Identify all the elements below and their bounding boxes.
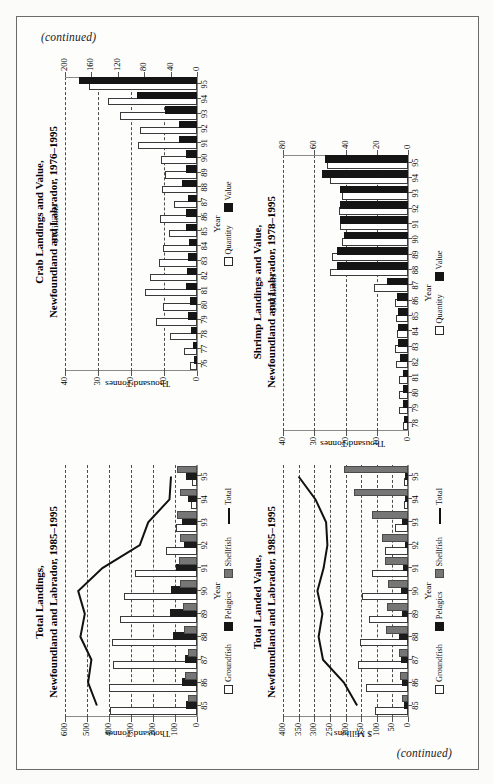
x-tick-label-89: 89 bbox=[411, 247, 420, 262]
gridline bbox=[131, 77, 132, 371]
x-tick bbox=[197, 590, 201, 591]
x-tick bbox=[197, 98, 201, 99]
bar-value-84 bbox=[398, 324, 408, 332]
x-tick bbox=[197, 230, 201, 231]
legend-swatch-groundfish bbox=[224, 685, 233, 694]
bar-value-82 bbox=[187, 268, 197, 275]
y-tick bbox=[131, 717, 132, 722]
x-tick-label-82: 82 bbox=[411, 354, 420, 369]
legend-item-shellfish: Shellfish bbox=[435, 537, 444, 579]
plot-area: 0501001502002503003504008586878889909192… bbox=[283, 465, 408, 717]
x-tick-label-94: 94 bbox=[411, 170, 420, 185]
x-tick-label-89: 89 bbox=[411, 602, 420, 625]
chart-legend: GroundfishPelagicsShellfishTotal bbox=[224, 465, 233, 717]
x-tick bbox=[408, 682, 412, 683]
x-tick bbox=[197, 659, 201, 660]
y2-axis-title: $ Millions bbox=[50, 77, 60, 371]
y-tick-label: 0 bbox=[402, 437, 412, 455]
x-tick-label-80: 80 bbox=[200, 298, 209, 313]
legend-label-total: Total bbox=[224, 488, 233, 505]
x-tick-label-86: 86 bbox=[411, 671, 420, 694]
x-tick bbox=[197, 333, 201, 334]
legend-item-pelagics: Pelagics bbox=[224, 592, 233, 632]
x-tick-label-88: 88 bbox=[411, 262, 420, 277]
y-tick-label: 250 bbox=[324, 723, 334, 745]
bar-value-84 bbox=[189, 239, 197, 246]
bar-value-80 bbox=[190, 297, 197, 304]
x-tick-label-78: 78 bbox=[411, 416, 420, 431]
chart-title: Total Landings,Newfoundland and Labrador… bbox=[33, 457, 61, 747]
x-tick-label-95: 95 bbox=[200, 465, 209, 488]
legend-item-pelagics: Pelagics bbox=[435, 592, 444, 632]
x-tick-label-91: 91 bbox=[411, 557, 420, 580]
y2-axis-title: $ Millions bbox=[268, 155, 278, 431]
chart-legend: QuantityValue bbox=[435, 155, 444, 431]
legend-label-groundfish: Groundfish bbox=[224, 644, 233, 682]
bar-value-83 bbox=[188, 253, 197, 260]
y2-tick-label: 40 bbox=[340, 131, 350, 149]
x-tick-label-91: 91 bbox=[200, 557, 209, 580]
legend-item-total: Total bbox=[435, 488, 444, 524]
bar-value-92 bbox=[179, 121, 197, 128]
x-axis-title: Year bbox=[423, 155, 433, 431]
bar-value-93 bbox=[340, 186, 408, 194]
x-tick bbox=[197, 613, 201, 614]
bar-value-92 bbox=[340, 201, 408, 209]
x-tick bbox=[197, 260, 201, 261]
y-tick bbox=[361, 717, 362, 722]
bar-value-90 bbox=[186, 150, 197, 157]
legend-item-value: Value bbox=[224, 182, 233, 213]
x-tick bbox=[197, 113, 201, 114]
y-tick-label: 50 bbox=[386, 723, 396, 745]
y-tick bbox=[283, 431, 284, 436]
x-tick-label-89: 89 bbox=[200, 165, 209, 180]
y-tick bbox=[87, 717, 88, 722]
legend-swatch-pelagics bbox=[224, 622, 233, 631]
y-tick bbox=[197, 371, 198, 376]
bar-value-82 bbox=[400, 354, 408, 362]
x-tick bbox=[408, 636, 412, 637]
total-line-series bbox=[65, 465, 197, 717]
x-tick bbox=[408, 208, 412, 209]
bar-value-95 bbox=[325, 155, 408, 163]
x-tick bbox=[197, 636, 201, 637]
chart-title-line1: Crab Landings and Value, bbox=[33, 160, 45, 284]
y-tick bbox=[197, 717, 198, 722]
x-tick-label-81: 81 bbox=[200, 283, 209, 298]
y-tick-label: 350 bbox=[293, 723, 303, 745]
x-tick bbox=[408, 192, 412, 193]
bar-value-88 bbox=[337, 262, 408, 270]
x-tick bbox=[197, 83, 201, 84]
x-tick bbox=[197, 201, 201, 202]
x-tick-label-86: 86 bbox=[200, 671, 209, 694]
bar-value-91 bbox=[179, 136, 197, 143]
gridline bbox=[197, 465, 198, 717]
x-tick-label-91: 91 bbox=[411, 216, 420, 231]
y2-tick-label: 80 bbox=[277, 131, 287, 149]
bar-value-85 bbox=[398, 308, 408, 316]
legend-swatch-pelagics bbox=[435, 622, 444, 631]
x-tick-label-90: 90 bbox=[411, 232, 420, 247]
bar-value-81 bbox=[186, 283, 197, 290]
x-axis-title: Year bbox=[212, 465, 222, 717]
y-tick bbox=[392, 717, 393, 722]
chart-legend: GroundfishPelagicsShellfishTotal bbox=[435, 465, 444, 717]
legend-swatch-groundfish bbox=[435, 685, 444, 694]
chart-title: Total Landed Value,Newfoundland and Labr… bbox=[251, 457, 279, 747]
legend-label-quantity: Quantity bbox=[224, 225, 233, 254]
x-tick-label-92: 92 bbox=[411, 201, 420, 216]
legend-swatch-quantity bbox=[435, 326, 444, 335]
x-tick bbox=[197, 498, 201, 499]
x-tick-label-87: 87 bbox=[200, 648, 209, 671]
legend-label-shellfish: Shellfish bbox=[435, 537, 444, 567]
x-tick bbox=[408, 498, 412, 499]
y-tick bbox=[65, 717, 66, 722]
x-tick bbox=[408, 407, 412, 408]
y-tick bbox=[346, 431, 347, 436]
x-tick bbox=[197, 172, 201, 173]
y-tick-label: 30 bbox=[92, 377, 102, 395]
legend-label-total: Total bbox=[435, 488, 444, 505]
y-tick bbox=[283, 717, 284, 722]
x-tick bbox=[197, 142, 201, 143]
bar-value-87 bbox=[387, 278, 408, 286]
